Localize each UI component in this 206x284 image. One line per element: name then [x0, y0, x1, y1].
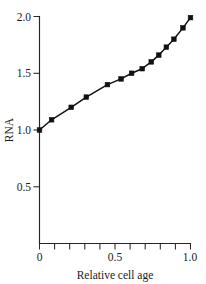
data-point-marker: [149, 60, 154, 65]
data-series-line: [40, 18, 191, 130]
data-point-marker: [188, 15, 193, 20]
data-point-marker: [181, 26, 186, 31]
axes-group: [40, 17, 191, 244]
data-point-marker: [84, 95, 89, 100]
data-point-marker: [49, 117, 54, 122]
y-axis-title: RNA: [3, 117, 15, 142]
figure-container: 2.0 1.5 1.0 0.5 0 0.5 1.0 Relative cell …: [0, 0, 206, 284]
y-tick-label-0-5: 0.5: [17, 181, 32, 193]
data-point-marker: [156, 53, 161, 58]
data-point-marker: [119, 77, 124, 82]
y-tick-label-1-5: 1.5: [17, 67, 32, 79]
data-point-marker: [164, 45, 169, 50]
y-tick-marks: [34, 17, 40, 187]
data-point-marker: [129, 71, 134, 76]
data-point-marker: [69, 105, 74, 110]
data-point-marker: [37, 128, 42, 133]
x-axis-title: Relative cell age: [77, 269, 154, 282]
x-tick-labels: 0 0.5 1.0: [37, 251, 198, 263]
data-point-marker: [140, 66, 145, 71]
y-tick-labels: 2.0 1.5 1.0 0.5: [17, 11, 32, 193]
x-tick-label-0-5: 0.5: [108, 251, 123, 263]
x-tick-label-0: 0: [37, 251, 43, 263]
x-tick-label-1-0: 1.0: [183, 251, 198, 263]
y-tick-label-2-0: 2.0: [17, 11, 32, 23]
data-point-marker: [172, 37, 177, 42]
rna-vs-cell-age-chart: 2.0 1.5 1.0 0.5 0 0.5 1.0 Relative cell …: [0, 0, 206, 284]
y-tick-label-1-0: 1.0: [17, 124, 32, 136]
data-point-marker: [105, 82, 110, 87]
x-tick-marks: [40, 244, 191, 250]
